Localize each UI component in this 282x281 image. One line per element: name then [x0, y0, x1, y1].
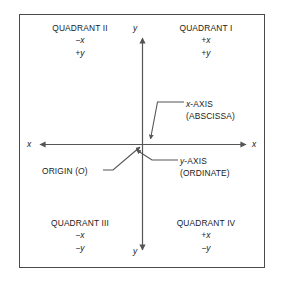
y-axis-bottom-label: y: [133, 246, 137, 258]
y-axis-callout-rest: -AXIS: [184, 156, 207, 166]
quadrant-1-y-sign: +y: [158, 47, 254, 59]
coordinate-plane-diagram: QUADRANT II −x +y QUADRANT I +x +y QUADR…: [0, 0, 282, 281]
quadrant-2-x-sign: −x: [32, 34, 128, 46]
y-axis-callout-label: y-AXIS (ORDINATE): [180, 156, 230, 179]
quadrant-3-x-sign: −x: [32, 229, 128, 241]
quadrant-1-x-sign: +x: [158, 34, 254, 46]
quadrant-4-x-sign: +x: [158, 229, 254, 241]
quadrant-3-title: QUADRANT III: [32, 217, 128, 229]
x-axis-callout-rest: -AXIS: [190, 99, 213, 109]
quadrant-3-labels: QUADRANT III −x −y: [32, 217, 128, 254]
x-axis-callout-label: x-AXIS (ABSCISSA): [186, 99, 235, 122]
quadrant-4-labels: QUADRANT IV +x −y: [158, 217, 254, 254]
y-axis-top-label: y: [133, 23, 137, 35]
quadrant-4-title: QUADRANT IV: [158, 217, 254, 229]
origin-callout-label: ORIGIN (O): [42, 166, 88, 178]
x-axis-left-label: x: [27, 139, 31, 151]
quadrant-2-title: QUADRANT II: [32, 22, 128, 34]
origin-text-after: ): [85, 166, 88, 176]
x-axis-right-label: x: [252, 139, 256, 151]
origin-italic-o: O: [78, 166, 85, 176]
quadrant-2-y-sign: +y: [32, 47, 128, 59]
y-axis-callout-line1: y-AXIS: [180, 156, 230, 168]
quadrant-1-labels: QUADRANT I +x +y: [158, 22, 254, 59]
quadrant-1-title: QUADRANT I: [158, 22, 254, 34]
x-axis-callout-line2: (ABSCISSA): [186, 111, 235, 123]
origin-text-before: ORIGIN (: [42, 166, 78, 176]
y-axis-callout-line2: (ORDINATE): [180, 168, 230, 180]
x-axis-callout-line1: x-AXIS: [186, 99, 235, 111]
quadrant-4-y-sign: −y: [158, 242, 254, 254]
quadrant-3-y-sign: −y: [32, 242, 128, 254]
quadrant-2-labels: QUADRANT II −x +y: [32, 22, 128, 59]
